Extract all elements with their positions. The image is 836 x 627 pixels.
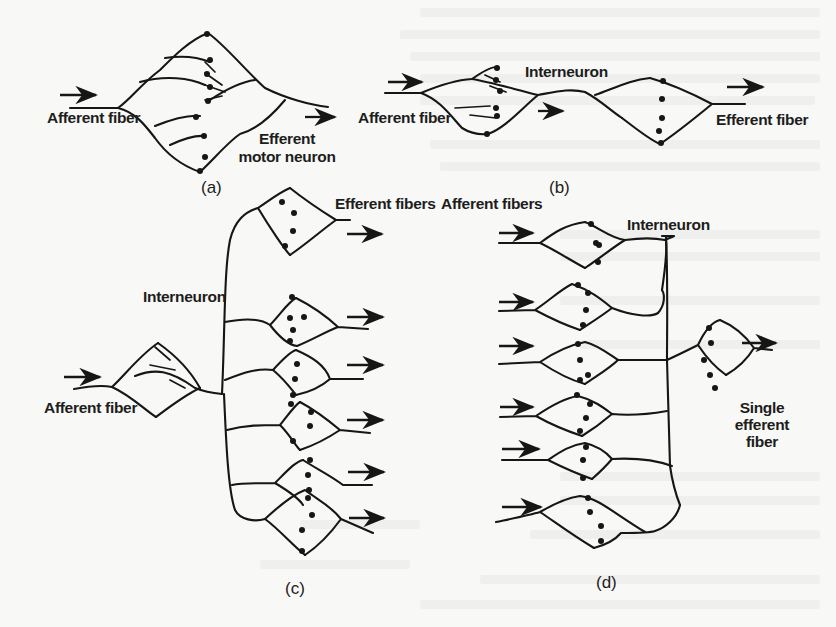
scanned-page: Afferent fiber Efferent motor neuron (a)… — [0, 0, 836, 627]
panel-b-tag: (b) — [549, 178, 570, 198]
panel-a-motor-neuron-label: motor neuron — [232, 148, 342, 165]
panel-c-interneuron-label: Interneuron — [143, 288, 226, 305]
panel-d-afferent-fibers-label: Afferent fibers — [441, 195, 542, 212]
panel-b-efferent-label: Efferent fiber — [716, 111, 808, 128]
panel-b-interneuron-label: Interneuron — [525, 63, 608, 80]
panel-c-tag: (c) — [285, 579, 305, 599]
panel-d-interneuron-label: Interneuron — [627, 216, 710, 233]
panel-c-diagram — [64, 188, 384, 555]
panel-d-tag: (d) — [596, 573, 617, 593]
panel-d-diagram — [496, 221, 776, 548]
panel-a-afferent-label: Afferent fiber — [47, 109, 140, 126]
panel-c-afferent-label: Afferent fiber — [44, 399, 137, 416]
panel-d-efferent-label: efferent — [712, 416, 812, 433]
panel-d-fiber-label: fiber — [712, 433, 812, 450]
panel-a-efferent-label: Efferent — [242, 130, 332, 147]
panel-d-single-label: Single — [712, 399, 812, 416]
panel-c-efferent-fibers-label: Efferent fibers — [335, 195, 436, 212]
panel-a-tag: (a) — [201, 178, 222, 198]
neuron-circuit-figure — [0, 0, 836, 627]
panel-b-afferent-label: Afferent fiber — [358, 109, 451, 126]
